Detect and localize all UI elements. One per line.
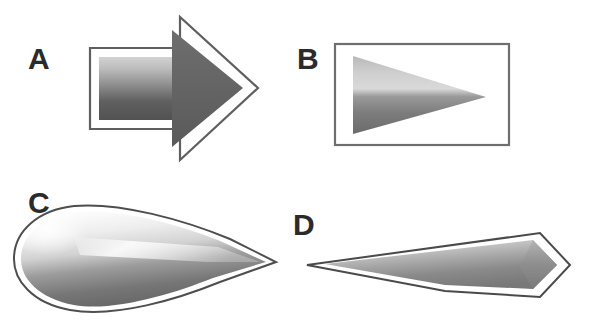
shape-teardrop-right xyxy=(8,200,293,332)
shape-kite-arrowhead-left xyxy=(295,215,585,325)
panel-b: B xyxy=(290,20,530,170)
arrow-shaft-fill-a xyxy=(99,57,172,120)
panel-a: A xyxy=(0,0,290,175)
shape-triangle-in-rectangle xyxy=(320,30,530,170)
panel-label-b: B xyxy=(297,44,319,74)
panel-d: D xyxy=(285,195,597,332)
shape-block-arrow-right xyxy=(0,0,290,175)
panel-c: C xyxy=(0,175,290,332)
figure-root: A xyxy=(0,0,597,332)
